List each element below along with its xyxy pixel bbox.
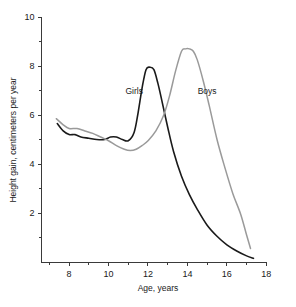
y-tick-label: 8 <box>29 61 34 71</box>
x-tick-label: 16 <box>222 269 232 279</box>
series-label-boys: Boys <box>198 86 217 96</box>
y-tick-label: 4 <box>29 159 34 169</box>
x-tick-label: 8 <box>67 269 72 279</box>
axis-frame <box>42 17 267 262</box>
y-tick-label: 2 <box>29 208 34 218</box>
x-tick-label: 10 <box>104 269 114 279</box>
x-tick-label: 14 <box>182 269 192 279</box>
y-tick-label: 6 <box>29 110 34 120</box>
y-axis-title: Height gain, centimeters per year <box>8 77 18 202</box>
y-tick-label: 10 <box>24 12 34 22</box>
chart-canvas: 81012141618246810 GirlsBoys Age, years H… <box>0 0 296 307</box>
x-tick-label: 12 <box>143 269 153 279</box>
x-axis-title: Age, years <box>138 283 179 293</box>
series-line-boys <box>56 49 250 249</box>
x-tick-label: 18 <box>261 269 271 279</box>
height-velocity-chart: 81012141618246810 GirlsBoys Age, years H… <box>0 0 296 307</box>
series-lines <box>56 49 253 259</box>
series-label-girls: Girls <box>125 86 142 96</box>
axes: 81012141618246810 <box>24 12 271 279</box>
